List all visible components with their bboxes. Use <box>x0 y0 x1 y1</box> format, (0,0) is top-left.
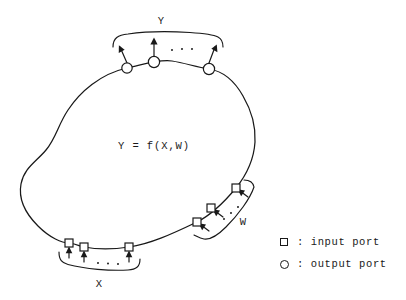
legend-row-output: : output port <box>277 253 402 275</box>
input-port[interactable] <box>80 243 88 251</box>
output-arrow-2 <box>150 38 157 57</box>
legend-label-input: : input port <box>297 236 380 248</box>
input-port[interactable] <box>65 239 73 247</box>
output-arrow-3 <box>209 43 220 63</box>
circle-marker-icon <box>277 257 291 271</box>
legend: : input port : output port <box>277 231 402 275</box>
input-port[interactable] <box>125 243 133 251</box>
output-group-brace <box>113 32 223 47</box>
square-marker-icon <box>277 235 291 249</box>
input-x-ellipsis <box>97 262 119 265</box>
input-w-ellipsis <box>223 206 239 220</box>
input-port[interactable] <box>193 218 201 226</box>
output-port[interactable] <box>203 63 214 74</box>
output-port[interactable] <box>148 56 159 67</box>
output-group-label: Y <box>158 15 165 27</box>
input-arrow-x-2 <box>81 251 88 263</box>
input-x-group-label: X <box>96 278 103 290</box>
input-port[interactable] <box>232 184 240 192</box>
input-port[interactable] <box>207 204 215 212</box>
function-body-blob <box>20 61 255 249</box>
input-arrow-x-3 <box>126 251 133 263</box>
input-arrow-x-1 <box>66 247 73 259</box>
output-ports-ellipsis <box>171 48 193 51</box>
input-w-group-label: W <box>240 216 247 228</box>
output-arrow-1 <box>116 44 127 63</box>
legend-label-output: : output port <box>297 258 387 270</box>
legend-row-input: : input port <box>277 231 402 253</box>
output-port[interactable] <box>122 63 132 73</box>
function-equation-label: Y = f(X,W) <box>118 140 190 152</box>
function-module-diagram: Y <box>0 0 406 300</box>
